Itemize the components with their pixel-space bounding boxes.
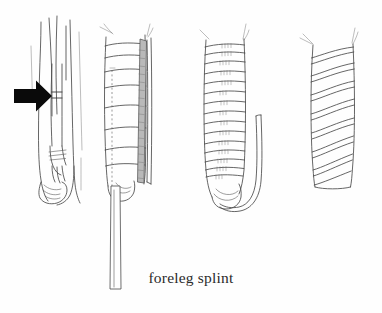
panel-spiral-bandaged-leg — [300, 28, 358, 189]
figure-illustration — [0, 0, 382, 313]
figure-caption: foreleg splint — [0, 269, 382, 287]
panel-padded-leg-with-splint-rod — [100, 24, 153, 289]
panel-fractured-foreleg — [14, 16, 82, 205]
foreleg-splint-figure: foreleg splint — [0, 0, 382, 313]
splint-rod — [138, 38, 152, 184]
fracture-arrow-icon — [14, 81, 52, 112]
panel-horizontally-bandaged-leg — [200, 24, 262, 212]
